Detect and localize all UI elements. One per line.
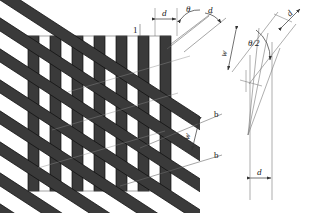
label-detail-d-bottom: d — [257, 167, 262, 177]
diagram-canvas: 1 d θ d w b b — [0, 0, 314, 213]
main-view: 1 d θ d w b b — [0, 0, 276, 213]
label-moire-width-w: w — [181, 132, 192, 140]
label-band-b-top: b — [214, 109, 219, 119]
dimension-d-detail-bottom: d — [251, 167, 271, 178]
dimension-w-detail: w — [218, 30, 236, 70]
dimension-theta-half: θ/2 — [248, 30, 270, 60]
dimension-d-rotated: d — [205, 5, 221, 23]
label-band-b-bottom: b — [214, 150, 219, 160]
label-ref-one: 1 — [133, 25, 138, 35]
label-pitch-d-vertical: d — [162, 8, 167, 18]
reference-line-1: 1 — [133, 24, 140, 36]
label-theta-half: θ/2 — [248, 38, 260, 48]
label-angle-theta: θ — [186, 4, 191, 14]
dimension-theta: θ — [181, 4, 200, 19]
label-detail-w: w — [218, 49, 229, 57]
detail-view: w θ/2 d d — [218, 8, 300, 200]
label-detail-d-top: d — [284, 8, 295, 19]
detail-rotated-lines — [232, 12, 296, 135]
dimension-d-vertical: d — [155, 8, 177, 36]
figure-root: 1 d θ d w b b — [0, 0, 314, 213]
label-pitch-d-rotated: d — [208, 5, 213, 15]
